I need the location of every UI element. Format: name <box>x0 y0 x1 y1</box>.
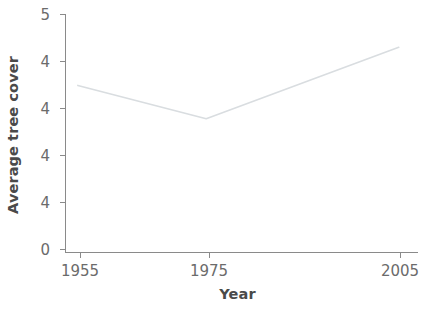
plot-area <box>0 0 426 315</box>
data-series-line <box>78 47 399 118</box>
line-chart-figure: Average tree cover 5 4 4 4 4 0 1955 1975… <box>0 0 426 315</box>
y-axis-ticks <box>60 15 65 250</box>
x-axis-title: Year <box>65 286 410 302</box>
